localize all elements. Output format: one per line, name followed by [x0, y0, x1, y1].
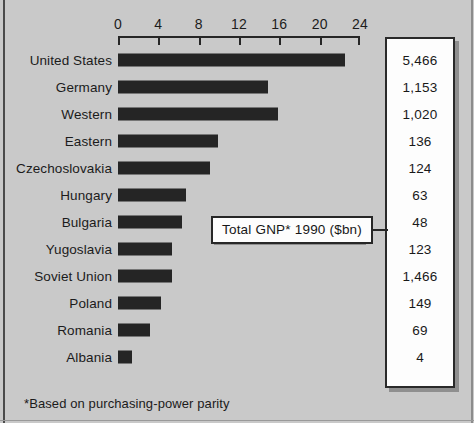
- bar: [118, 242, 172, 255]
- bar-rows: United States5,466Germany1,153Western1,0…: [0, 46, 474, 370]
- axis-tick-label: 20: [312, 16, 328, 32]
- bar: [118, 134, 218, 147]
- value-label: 4: [385, 349, 455, 364]
- x-axis: 04812162024: [118, 16, 360, 42]
- bar-track: [118, 350, 360, 363]
- axis-tick-mark: [279, 36, 281, 45]
- bar-track: [118, 269, 360, 282]
- value-label: 1,020: [385, 106, 455, 121]
- bar-row: Czechoslovakia124: [0, 154, 474, 181]
- bar-row: Hungary63: [0, 181, 474, 208]
- bar: [118, 323, 150, 336]
- axis-tick-mark: [358, 36, 360, 45]
- bar-row: Eastern136: [0, 127, 474, 154]
- category-label: Germany: [56, 79, 112, 94]
- bar-track: [118, 188, 360, 201]
- category-label: Hungary: [60, 187, 112, 202]
- value-label: 124: [385, 160, 455, 175]
- bar-row: Western1,020: [0, 100, 474, 127]
- bar-row: Poland149: [0, 289, 474, 316]
- bar-track: [118, 161, 360, 174]
- axis-tick-mark: [158, 36, 160, 45]
- bar-row: Albania4: [0, 343, 474, 370]
- axis-tick-label: 24: [352, 16, 368, 32]
- bar: [118, 296, 161, 309]
- bar-row: Romania69: [0, 316, 474, 343]
- bar-row: Soviet Union1,466: [0, 262, 474, 289]
- category-label: Eastern: [65, 133, 112, 148]
- axis-tick-label: 4: [154, 16, 162, 32]
- bar-track: [118, 53, 360, 66]
- category-label: Western: [61, 106, 112, 121]
- axis-tick-label: 16: [271, 16, 287, 32]
- bar-track: [118, 107, 360, 120]
- axis-tick-mark: [199, 36, 201, 45]
- value-label: 5,466: [385, 52, 455, 67]
- bar: [118, 80, 268, 93]
- bar: [118, 350, 132, 363]
- bar: [118, 269, 172, 282]
- axis-tick-mark: [239, 36, 241, 45]
- bar-track: [118, 134, 360, 147]
- value-label: 63: [385, 187, 455, 202]
- bar-track: [118, 323, 360, 336]
- category-label: Soviet Union: [34, 268, 112, 283]
- value-label: 69: [385, 322, 455, 337]
- category-label: Romania: [57, 322, 112, 337]
- bar: [118, 107, 278, 120]
- value-label: 136: [385, 133, 455, 148]
- value-label: 1,466: [385, 268, 455, 283]
- chart-page: 04812162024 United States5,466Germany1,1…: [0, 0, 474, 423]
- frame-bottom-edge: [0, 420, 474, 421]
- value-label: 48: [385, 214, 455, 229]
- axis-tick-mark: [118, 36, 120, 45]
- callout-label: Total GNP* 1990 ($bn): [211, 216, 373, 244]
- category-label: Bulgaria: [62, 214, 112, 229]
- axis-tick-label: 0: [114, 16, 122, 32]
- bar: [118, 53, 345, 66]
- value-label: 149: [385, 295, 455, 310]
- bar: [118, 161, 210, 174]
- bar-track: [118, 296, 360, 309]
- category-label: Albania: [66, 349, 112, 364]
- axis-tick-label: 12: [231, 16, 247, 32]
- bar-row: Germany1,153: [0, 73, 474, 100]
- value-label: 123: [385, 241, 455, 256]
- bar: [118, 188, 186, 201]
- footnote: *Based on purchasing-power parity: [24, 396, 230, 411]
- bar-row: United States5,466: [0, 46, 474, 73]
- bar-track: [118, 80, 360, 93]
- axis-tick-label: 8: [195, 16, 203, 32]
- category-label: Yugoslavia: [46, 241, 112, 256]
- category-label: United States: [30, 52, 112, 67]
- axis-tick-mark: [320, 36, 322, 45]
- bar: [118, 215, 182, 228]
- value-label: 1,153: [385, 79, 455, 94]
- category-label: Czechoslovakia: [16, 160, 112, 175]
- category-label: Poland: [69, 295, 112, 310]
